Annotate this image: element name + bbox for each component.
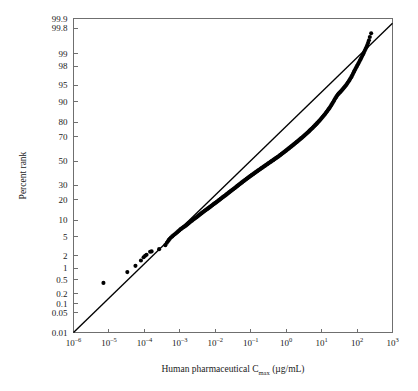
data-point — [101, 281, 105, 285]
y-tick-label: 10 — [59, 215, 69, 225]
y-axis-title: Percent rank — [18, 151, 28, 199]
y-tick-label: 0.05 — [52, 308, 68, 318]
y-tick-label: 5 — [63, 232, 68, 242]
y-tick-label: 98 — [59, 61, 69, 71]
x-axis-title: Human pharmaceutical Cmax (µg/mL) — [161, 364, 304, 376]
y-tick-label: 0.01 — [52, 328, 68, 338]
data-point — [368, 35, 372, 39]
y-tick-label: 95 — [59, 80, 69, 90]
y-tick-label: 0.5 — [56, 275, 68, 285]
y-tick-label: 99.8 — [52, 23, 68, 33]
data-point — [157, 247, 161, 251]
y-tick-label: 20 — [59, 195, 69, 205]
data-point — [150, 249, 154, 253]
y-tick-label: 30 — [59, 180, 69, 190]
y-tick-label: 0.2 — [56, 289, 67, 299]
data-point — [133, 264, 137, 268]
y-tick-label: 80 — [59, 117, 69, 127]
data-point — [144, 253, 148, 257]
probability-plot-chart: 10–610–510–410–310–210–1100101102103 99.… — [0, 0, 418, 391]
y-axis-title-text: Percent rank — [18, 151, 28, 199]
y-tick-label: 99 — [59, 49, 69, 59]
y-tick-label: 99.9 — [52, 14, 68, 24]
data-point — [139, 258, 143, 262]
y-tick-label: 2 — [63, 251, 68, 261]
y-tick-label: 70 — [59, 132, 69, 142]
y-tick-label: 50 — [59, 156, 69, 166]
x-axis-title-text: Human pharmaceutical Cmax (µg/mL) — [161, 364, 304, 376]
figure-container: 10–610–510–410–310–210–1100101102103 99.… — [0, 0, 418, 391]
data-point — [125, 270, 129, 274]
data-point — [369, 31, 373, 35]
y-tick-label: 1 — [63, 263, 68, 273]
y-tick-label: 90 — [59, 97, 69, 107]
